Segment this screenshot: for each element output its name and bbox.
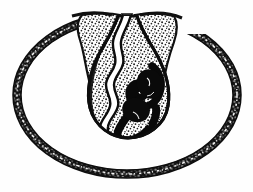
figure-illustration: Transverse section of seed showing outer… (0, 0, 253, 192)
engraving-canvas (0, 0, 253, 192)
